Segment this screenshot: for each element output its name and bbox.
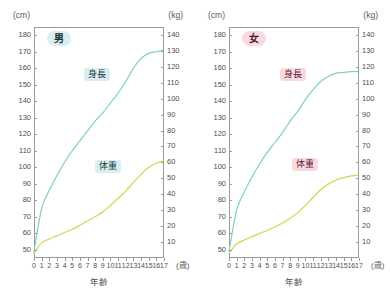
y-tick-mark (229, 134, 232, 135)
x-tick-mark (34, 258, 35, 261)
y-tick-mark (161, 178, 164, 179)
y-tick-label-left: 100 (18, 163, 31, 171)
y-tick-label-right: 130 (167, 47, 180, 55)
y-tick-mark (34, 217, 37, 218)
y-tick-mark (356, 194, 359, 195)
y-tick-mark (229, 184, 232, 185)
x-tick-label: 1 (40, 262, 44, 269)
y-tick-mark (161, 51, 164, 52)
x-tick-label: 14 (332, 262, 340, 269)
x-tick-mark (110, 258, 111, 261)
series-label-weight-male: 体重 (95, 160, 121, 173)
x-tick-mark (80, 258, 81, 261)
y-tick-label-right: 80 (167, 127, 175, 135)
x-tick-mark (283, 258, 284, 261)
x-tick-label: 10 (302, 262, 310, 269)
y-tick-label-left: 60 (218, 229, 226, 237)
y-tick-label-left: 50 (218, 246, 226, 254)
y-tick-label-right: 80 (362, 127, 370, 135)
y-tick-label-right: 50 (362, 174, 370, 182)
y-tick-mark (356, 131, 359, 132)
x-tick-mark (103, 258, 104, 261)
y-tick-label-right: 40 (167, 190, 175, 198)
y-tick-mark (229, 151, 232, 152)
y-tick-mark (34, 134, 37, 135)
y-tick-label-left: 60 (23, 229, 31, 237)
curves-male (34, 27, 164, 258)
y-tick-mark (161, 162, 164, 163)
y-tick-mark (161, 210, 164, 211)
y-tick-mark (34, 184, 37, 185)
y-tick-mark (34, 101, 37, 102)
x-tick-mark (290, 258, 291, 261)
y-tick-mark (356, 83, 359, 84)
y-tick-mark (356, 67, 359, 68)
x-tick-label: 13 (130, 262, 138, 269)
x-tick-mark (118, 258, 119, 261)
x-tick-mark (252, 258, 253, 261)
x-tick-mark (88, 258, 89, 261)
y-tick-label-left: 110 (19, 147, 31, 155)
y-tick-mark (34, 35, 37, 36)
x-tick-mark (275, 258, 276, 261)
x-tick-label: 10 (107, 262, 115, 269)
x-tick-label: 12 (317, 262, 325, 269)
x-axis-title: 年齢 (285, 275, 303, 287)
x-tick-label: 7 (281, 262, 285, 269)
x-tick-mark (298, 258, 299, 261)
x-tick-mark (65, 258, 66, 261)
y-tick-label-left: 130 (213, 114, 226, 122)
y-tick-label-left: 130 (18, 114, 31, 122)
y-tick-mark (356, 146, 359, 147)
panel-male: (cm) (kg) 男 身長 体重 5060708090100110120130… (0, 0, 195, 302)
x-tick-mark (149, 258, 150, 261)
y-tick-mark (161, 146, 164, 147)
y-tick-label-right: 110 (167, 79, 179, 87)
y-tick-mark (229, 217, 232, 218)
x-tick-mark (141, 258, 142, 261)
y-tick-mark (34, 233, 37, 234)
y-tick-label-right: 140 (167, 31, 180, 39)
y-tick-mark (356, 99, 359, 100)
x-tick-mark (237, 258, 238, 261)
y-tick-label-left: 150 (18, 81, 31, 89)
x-tick-mark (344, 258, 345, 261)
weight-curve (34, 161, 164, 253)
x-tick-mark (133, 258, 134, 261)
y-tick-mark (161, 35, 164, 36)
y-tick-mark (356, 35, 359, 36)
y-tick-label-right: 50 (167, 174, 175, 182)
x-tick-label: 8 (288, 262, 292, 269)
y-tick-label-right: 30 (362, 206, 370, 214)
panel-female: (cm) (kg) 女 身長 体重 5060708090100110120130… (195, 0, 390, 302)
x-tick-mark (72, 258, 73, 261)
y-tick-label-right: 100 (167, 95, 180, 103)
y-tick-mark (229, 101, 232, 102)
x-tick-label: 17 (355, 262, 363, 269)
y-tick-label-right: 130 (362, 47, 375, 55)
y-tick-mark (356, 178, 359, 179)
y-tick-label-left: 140 (213, 97, 226, 105)
left-axis-unit-label: (cm) (208, 10, 225, 20)
x-tick-mark (359, 258, 360, 261)
x-tick-mark (95, 258, 96, 261)
x-tick-label: 2 (47, 262, 51, 269)
y-tick-mark (229, 250, 232, 251)
x-tick-label: 17 (160, 262, 168, 269)
x-tick-mark (351, 258, 352, 261)
y-tick-mark (161, 242, 164, 243)
x-tick-mark (305, 258, 306, 261)
x-tick-mark (164, 258, 165, 261)
y-tick-mark (356, 162, 359, 163)
y-tick-label-right: 20 (167, 222, 175, 230)
y-tick-label-right: 120 (362, 63, 375, 71)
growth-chart-page: (cm) (kg) 男 身長 体重 5060708090100110120130… (0, 0, 390, 302)
y-tick-mark (161, 83, 164, 84)
y-tick-label-right: 40 (362, 190, 370, 198)
y-tick-label-right: 110 (362, 79, 374, 87)
y-tick-mark (34, 167, 37, 168)
y-tick-mark (229, 118, 232, 119)
y-tick-label-left: 160 (18, 64, 31, 72)
x-axis-unit-label: (歳) (371, 262, 384, 270)
y-tick-label-right: 60 (362, 158, 370, 166)
